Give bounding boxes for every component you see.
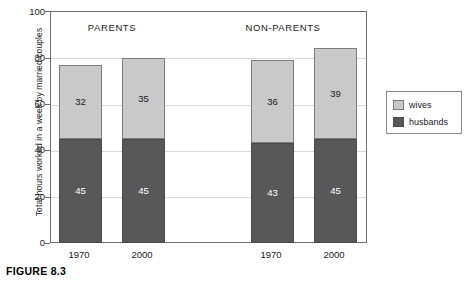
y-tick-mark-0 — [45, 243, 50, 244]
y-tick-label-40: 40 — [18, 145, 45, 155]
bar-segment-husbands[interactable]: 45 — [59, 139, 102, 243]
bar-value-wives: 35 — [138, 94, 149, 104]
wives-swatch-icon — [393, 100, 404, 110]
group-label-parents: PARENTS — [62, 22, 162, 33]
bar-nonparents-1970[interactable]: 36 43 — [251, 60, 294, 243]
y-tick-label-20: 20 — [18, 192, 45, 202]
bar-segment-husbands[interactable]: 43 — [251, 143, 294, 243]
y-tick-label-100: 100 — [18, 7, 45, 17]
group-label-non-parents: NON-PARENTS — [228, 22, 338, 33]
bar-value-husbands: 45 — [330, 186, 341, 196]
bar-parents-2000[interactable]: 35 45 — [122, 58, 165, 243]
figure-caption: FIGURE 8.3 — [6, 265, 66, 277]
bar-value-wives: 32 — [75, 97, 86, 107]
y-tick-label-0: 0 — [18, 238, 45, 248]
bar-parents-1970[interactable]: 32 45 — [59, 65, 102, 243]
husbands-swatch-icon — [393, 117, 404, 127]
bar-segment-husbands[interactable]: 45 — [122, 139, 165, 243]
bar-value-husbands: 45 — [138, 186, 149, 196]
bar-value-wives: 39 — [330, 89, 341, 99]
legend-item-husbands[interactable]: husbands — [393, 114, 461, 130]
x-tick-label-nonparents-2000: 2000 — [304, 249, 364, 260]
bar-segment-wives[interactable]: 35 — [122, 58, 165, 139]
x-tick-label-nonparents-1970: 1970 — [241, 249, 301, 260]
y-tick-label-60: 60 — [18, 99, 45, 109]
bar-value-wives: 36 — [267, 97, 278, 107]
bar-value-husbands: 45 — [75, 186, 86, 196]
legend-item-wives[interactable]: wives — [393, 97, 461, 113]
y-tick-label-80: 80 — [18, 53, 45, 63]
plot-area: 32 45 35 45 36 43 39 — [50, 11, 367, 243]
y-axis-title: Total hours worked in a week by married … — [34, 0, 44, 247]
x-tick-label-parents-1970: 1970 — [49, 249, 109, 260]
bar-nonparents-2000[interactable]: 39 45 — [314, 48, 357, 243]
bar-segment-wives[interactable]: 39 — [314, 48, 357, 139]
bar-segment-wives[interactable]: 36 — [251, 60, 294, 143]
legend-label-husbands: husbands — [409, 117, 448, 127]
bar-segment-husbands[interactable]: 45 — [314, 139, 357, 243]
bar-value-husbands: 43 — [267, 188, 278, 198]
figure-container: Total hours worked in a week by married … — [0, 0, 466, 282]
x-tick-label-parents-2000: 2000 — [112, 249, 172, 260]
bar-segment-wives[interactable]: 32 — [59, 65, 102, 139]
legend-label-wives: wives — [409, 100, 432, 110]
chart-legend: wives husbands — [386, 91, 462, 134]
